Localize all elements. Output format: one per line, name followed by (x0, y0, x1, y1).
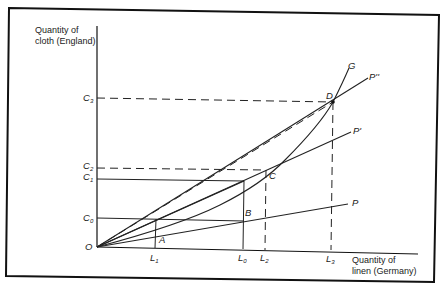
c1-line (97, 179, 244, 181)
point-b-label: B (245, 207, 252, 218)
price-line-p2 (97, 78, 368, 247)
tick-l2: L2 (260, 252, 269, 264)
x-axis-label-2: linen (Germany) (352, 266, 417, 276)
l0-line (243, 181, 244, 249)
tick-l3: L3 (326, 253, 335, 265)
line-p2-label: P'' (369, 71, 380, 82)
trade-diagram: Quantity of cloth (England) Quantity of … (0, 0, 442, 294)
frame-border (6, 8, 439, 282)
l2-dashed-line (265, 170, 266, 250)
tick-c1: C1 (83, 171, 93, 183)
curve-g-label: G (348, 60, 355, 71)
tick-l0: L0 (238, 252, 247, 264)
y-axis-label-1: Quantity of (35, 25, 79, 35)
origin-label: O (85, 241, 93, 252)
tick-l1: L1 (150, 252, 159, 264)
c0-line (97, 218, 244, 221)
point-d-label: D (326, 90, 333, 101)
l3-dashed-line (331, 102, 333, 250)
c3-dashed-line (97, 98, 333, 102)
x-axis-label-1: Quantity of (352, 255, 396, 265)
price-line-p (97, 204, 348, 247)
x-axis (97, 247, 418, 254)
line-p-label: P (352, 197, 359, 208)
l1-line (155, 219, 156, 248)
ray-o-to-c1 (97, 181, 244, 247)
point-c-label: C (269, 170, 276, 181)
point-a-label: A (158, 234, 165, 245)
c2-dashed-line (97, 168, 266, 170)
tick-c0: C0 (83, 212, 94, 224)
y-axis-label-2: cloth (England) (35, 36, 96, 46)
line-p1-label: P' (353, 125, 362, 136)
tick-c3: C3 (83, 92, 94, 104)
